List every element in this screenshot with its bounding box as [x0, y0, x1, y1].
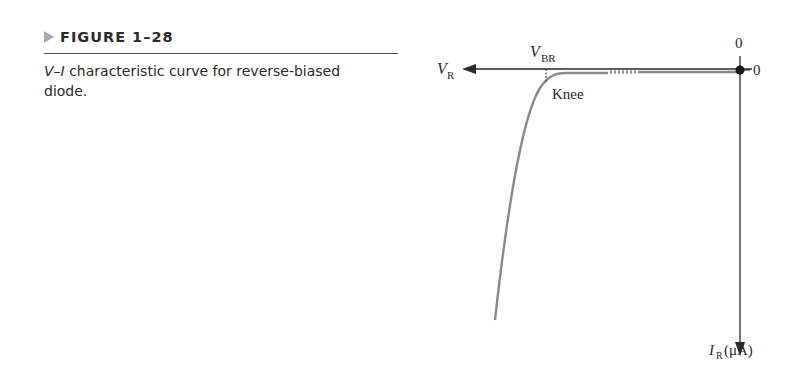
y-axis [735, 56, 745, 356]
y-axis-label: I [708, 342, 715, 358]
origin-label-top: 0 [735, 35, 743, 51]
origin-dot [736, 66, 745, 75]
y-axis-label-sub: R [716, 350, 723, 361]
breakdown-label-sub: BR [541, 52, 556, 64]
x-axis-arrow-icon [462, 64, 476, 74]
knee-label: Knee [552, 86, 584, 102]
y-axis-unit: (μA) [724, 342, 753, 359]
vi-diagram: V R V BR Knee 0 0 I R (μA) [0, 0, 807, 370]
origin-label-right: 0 [753, 62, 761, 78]
characteristic-curve [495, 72, 740, 320]
x-axis-label-sub: R [447, 69, 455, 81]
